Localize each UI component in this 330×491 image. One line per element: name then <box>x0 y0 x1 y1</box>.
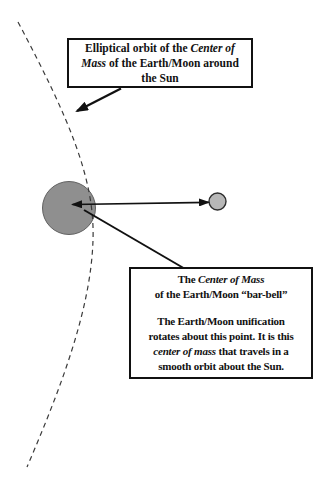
callout-line5-text: that travels in a <box>216 345 289 357</box>
orbit-label-line2-text: of the Earth/Moon around <box>106 57 239 69</box>
callout-blank-line <box>131 302 311 314</box>
orbit-label-line1: Elliptical orbit of the Center of <box>69 41 251 56</box>
callout-line5-italic: center of mass <box>153 345 216 357</box>
orbit-label-line2-italic: Mass <box>81 57 106 69</box>
callout-line4-text: rotates about this point. It is this <box>148 330 293 342</box>
callout-line1: The Center of Mass <box>131 272 311 287</box>
callout-line1-text: The <box>178 273 198 285</box>
moon-circle <box>209 193 226 210</box>
earth-circle <box>43 182 96 235</box>
callout-line3-text: The Earth/Moon unification <box>157 315 284 327</box>
orbit-label-line3: the Sun <box>69 71 251 86</box>
orbit-label-line3-text: the Sun <box>141 72 178 84</box>
callout-line6-text: smooth orbit about the Sun. <box>158 360 284 372</box>
callout-line2-text: of the Earth/Moon “bar-bell” <box>155 288 287 300</box>
diagram-canvas: Elliptical orbit of the Center of Mass o… <box>0 0 330 491</box>
orbit-label-line2: Mass of the Earth/Moon around <box>69 56 251 71</box>
orbit-label-arrow <box>77 89 121 112</box>
orbit-label-line1-italic: Center of <box>191 42 235 54</box>
center-of-mass-callout-box: The Center of Mass of the Earth/Moon “ba… <box>129 267 313 379</box>
orbit-dashed-curve <box>18 22 93 467</box>
callout-line4: rotates about this point. It is this <box>131 329 311 344</box>
callout-line1-italic: Center of Mass <box>198 273 264 285</box>
callout-line6: smooth orbit about the Sun. <box>131 359 311 374</box>
callout-line3: The Earth/Moon unification <box>131 314 311 329</box>
center-of-mass-pointer-line <box>84 210 184 268</box>
orbit-label-line1-text: Elliptical orbit of the <box>85 42 190 54</box>
callout-line2: of the Earth/Moon “bar-bell” <box>131 287 311 302</box>
orbit-label-box: Elliptical orbit of the Center of Mass o… <box>67 38 253 88</box>
callout-line5: center of mass that travels in a <box>131 344 311 359</box>
